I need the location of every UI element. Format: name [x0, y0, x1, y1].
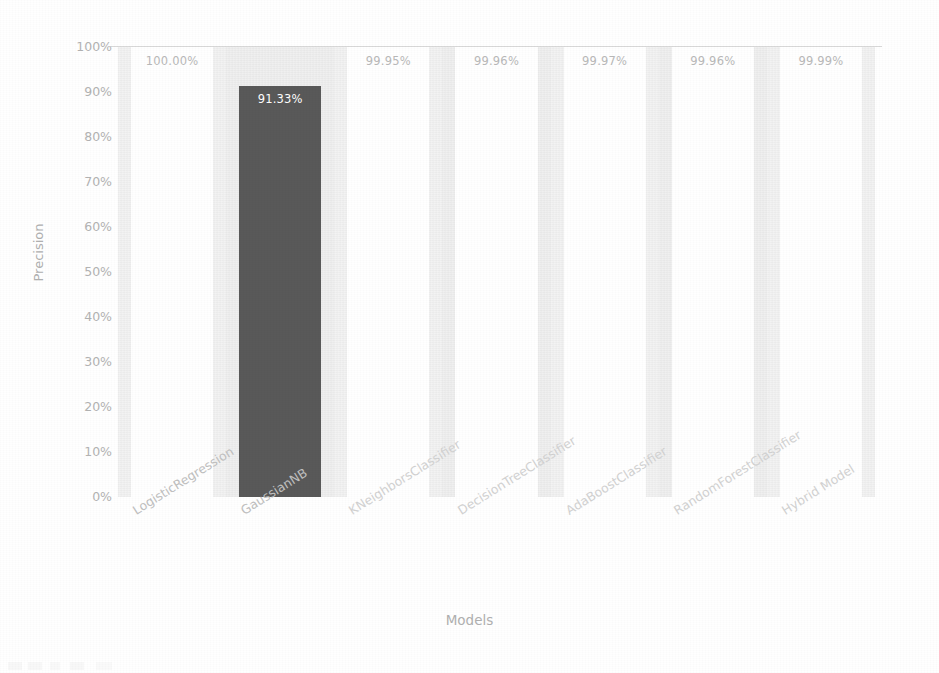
y-tick-label: 60%: [62, 219, 112, 234]
y-tick-label: 10%: [62, 444, 112, 459]
y-tick-label: 40%: [62, 309, 112, 324]
y-axis-title: Precision: [31, 193, 46, 313]
y-axis-ticks: 100%90%80%70%60%50%40%30%20%10%0%: [56, 0, 112, 673]
bar: [131, 47, 213, 497]
bar-value-label: 100.00%: [118, 54, 226, 68]
bar: [455, 47, 537, 497]
y-tick-label: 70%: [62, 174, 112, 189]
y-tick-label: 30%: [62, 354, 112, 369]
bar-value-label: 99.99%: [767, 54, 875, 68]
plot-area: [118, 47, 875, 497]
y-tick-label: 0%: [62, 489, 112, 504]
bar-chart-figure: 100%90%80%70%60%50%40%30%20%10%0% Precis…: [0, 0, 939, 673]
y-tick-label: 50%: [62, 264, 112, 279]
y-tick-label: 90%: [62, 84, 112, 99]
bar-value-label: 99.97%: [551, 54, 659, 68]
bar-value-label: 99.96%: [659, 54, 767, 68]
bar: [564, 47, 646, 497]
bar-value-label: 99.95%: [334, 54, 442, 68]
y-tick-label: 20%: [62, 399, 112, 414]
bar: [672, 47, 754, 497]
bar-value-label: 91.33%: [226, 92, 334, 106]
y-tick-label: 80%: [62, 129, 112, 144]
bar-value-label: 99.96%: [442, 54, 550, 68]
scan-edge-artifact: [8, 662, 112, 670]
x-axis-title: Models: [0, 612, 939, 628]
y-tick-label: 100%: [62, 39, 112, 54]
bar: [239, 86, 321, 497]
bar: [347, 47, 429, 497]
